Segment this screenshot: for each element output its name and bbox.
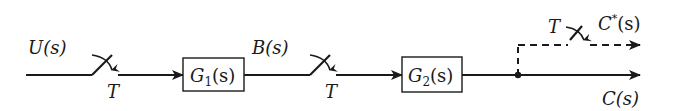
sampler-3-period-label: T bbox=[548, 16, 562, 37]
block-g1: G1(s) bbox=[183, 58, 244, 91]
block-g2-subscript: 2 bbox=[422, 75, 430, 89]
block-g1-subscript: 1 bbox=[204, 75, 212, 89]
sampler-1: T bbox=[26, 55, 121, 102]
svg-text:G2(s): G2(s) bbox=[408, 65, 453, 89]
svg-text:C*(s): C*(s) bbox=[598, 12, 641, 34]
block-g2-arg: (s) bbox=[430, 65, 453, 86]
block-g2: G2(s) bbox=[402, 57, 462, 92]
svg-text:G1(s): G1(s) bbox=[190, 65, 235, 89]
block-diagram: U(s) T G1(s) B(s) T G2(s) C(s) T bbox=[0, 0, 676, 111]
block-g2-label: G bbox=[408, 65, 422, 86]
sampler-1-period-label: T bbox=[107, 81, 121, 102]
sampler-2: T bbox=[310, 55, 339, 102]
block-g1-arg: (s) bbox=[212, 65, 235, 86]
intermediate-signal-label: B(s) bbox=[251, 37, 289, 58]
input-signal-label: U(s) bbox=[28, 37, 66, 58]
block-g1-label: G bbox=[190, 65, 204, 86]
output-signal-label: C(s) bbox=[602, 88, 639, 109]
sampled-output-label-arg: (s) bbox=[617, 13, 640, 34]
sampled-output-label-base: C bbox=[598, 13, 612, 34]
sampler-2-period-label: T bbox=[325, 81, 339, 102]
